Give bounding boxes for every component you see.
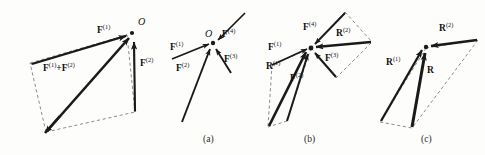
panel-c-label-r-total: R xyxy=(427,66,434,76)
panel-c-graphics xyxy=(0,0,485,155)
panel-c-caption: (c) xyxy=(421,134,432,144)
panel-c-dashed-parallelogram xyxy=(380,40,478,128)
panel-c-label-r1: R(1) xyxy=(386,56,400,68)
vector-addition-figure: F(1) O F(2) F(1)+F(2) F(1) F(2) F(3) F(4… xyxy=(0,0,485,155)
panel-c-vector-r2 xyxy=(431,40,477,46)
panel-c-label-r2: R(2) xyxy=(439,22,453,34)
panel-c-point-vertex-dot xyxy=(424,45,428,49)
